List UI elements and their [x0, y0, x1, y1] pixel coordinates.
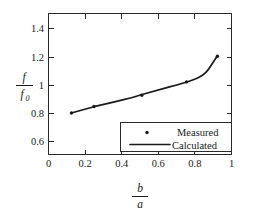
x-tick-label-0.4: 0.4: [115, 158, 129, 169]
y-tick-label-0.8: 0.8: [31, 108, 44, 119]
data-point: [185, 80, 188, 83]
data-point: [216, 55, 219, 58]
chart-figure: 1.4 1.2 1 0.8 0.6 0 0.2 0.4 0.6 0.8 1 f …: [0, 0, 260, 218]
data-point: [92, 105, 95, 108]
legend-marker-measured: [145, 131, 148, 134]
chart-legend: Measured Calculated: [121, 123, 232, 152]
x-axis-label: b a: [132, 182, 148, 210]
y-tick-label-0.6: 0.6: [31, 136, 44, 147]
chart-canvas: 1.4 1.2 1 0.8 0.6 0 0.2 0.4 0.6 0.8 1 f …: [0, 0, 260, 218]
y-tick-label-1: 1: [39, 80, 44, 91]
measured-points: [70, 55, 219, 115]
x-axis-label-denominator: a: [137, 198, 143, 210]
x-axis-ticks-top: [85, 14, 195, 19]
y-axis-label-numerator: f: [22, 71, 27, 84]
y-tick-label-1.4: 1.4: [31, 23, 45, 34]
x-tick-label-0.6: 0.6: [152, 158, 165, 169]
y-tick-label-1.2: 1.2: [31, 52, 44, 63]
y-axis-label: f f 0: [16, 71, 33, 103]
y-axis-label-denominator-subscript: 0: [26, 94, 30, 103]
data-point: [140, 94, 143, 97]
x-tick-label-1: 1: [229, 158, 234, 169]
x-tick-label-0: 0: [46, 158, 51, 169]
y-axis-ticks: [49, 29, 54, 142]
calculated-curve: [71, 56, 217, 113]
legend-label-measured: Measured: [177, 127, 219, 138]
x-axis-label-numerator: b: [137, 182, 143, 194]
legend-label-calculated: Calculated: [172, 140, 218, 151]
x-tick-label-0.8: 0.8: [188, 158, 201, 169]
data-point: [70, 111, 73, 114]
x-tick-label-0.2: 0.2: [79, 158, 92, 169]
